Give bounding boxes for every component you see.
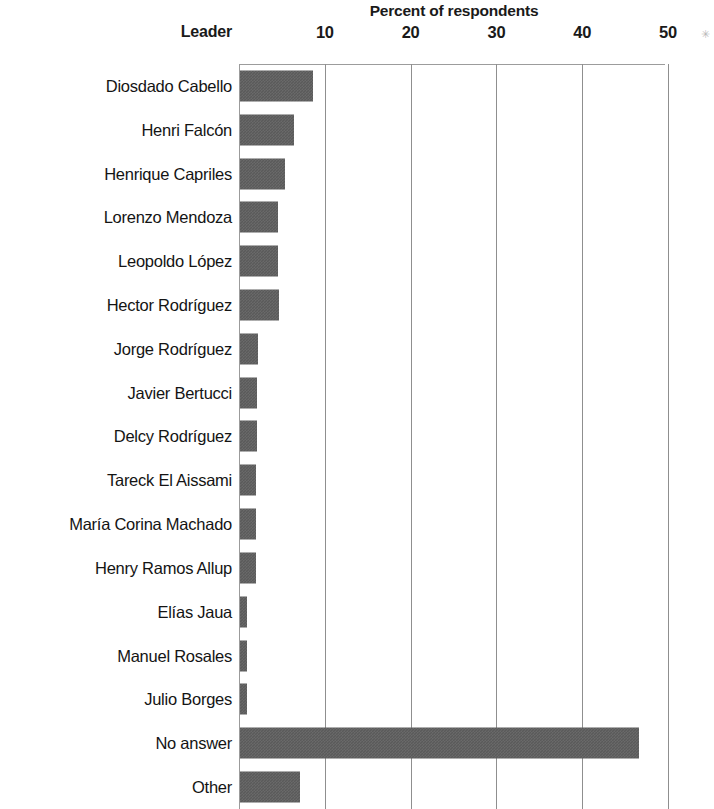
bar[interactable] bbox=[240, 684, 247, 715]
bar-row: Jorge Rodríguez bbox=[0, 327, 714, 371]
bar-row: Henri Falcón bbox=[0, 108, 714, 152]
bar[interactable] bbox=[240, 640, 247, 671]
category-label: Henrique Capriles bbox=[104, 164, 232, 183]
category-label: Manuel Rosales bbox=[117, 646, 232, 665]
category-label: Jorge Rodríguez bbox=[114, 339, 232, 358]
category-label: No answer bbox=[155, 734, 232, 753]
bar-row: Tareck El Aissami bbox=[0, 458, 714, 502]
category-label: Other bbox=[192, 778, 232, 797]
bar-row: Diosdado Cabello bbox=[0, 64, 714, 108]
bar-row: Henrique Capriles bbox=[0, 152, 714, 196]
bar[interactable] bbox=[240, 728, 639, 759]
bar[interactable] bbox=[240, 465, 256, 496]
bar-row: Other bbox=[0, 765, 714, 809]
scan-artifact-mark: ✳ bbox=[701, 30, 708, 38]
bar-row: Hector Rodríguez bbox=[0, 283, 714, 327]
bar-row: María Corina Machado bbox=[0, 502, 714, 546]
bar[interactable] bbox=[240, 772, 300, 803]
bar[interactable] bbox=[240, 70, 313, 101]
bar-row: Javier Bertucci bbox=[0, 371, 714, 415]
axis-title: Percent of respondents bbox=[239, 2, 669, 20]
bar[interactable] bbox=[240, 377, 257, 408]
bar-row: No answer bbox=[0, 721, 714, 765]
bar[interactable] bbox=[240, 552, 256, 583]
category-label: Javier Bertucci bbox=[128, 383, 232, 402]
x-axis-tick-label: 10 bbox=[316, 23, 334, 42]
category-label: Julio Borges bbox=[144, 690, 232, 709]
category-label: María Corina Machado bbox=[69, 515, 232, 534]
bar-row: Manuel Rosales bbox=[0, 634, 714, 678]
category-label: Henri Falcón bbox=[141, 120, 232, 139]
bar-row: Elías Jaua bbox=[0, 590, 714, 634]
bar-row: Henry Ramos Allup bbox=[0, 546, 714, 590]
category-label: Tareck El Aissami bbox=[107, 471, 232, 490]
bar[interactable] bbox=[240, 290, 279, 321]
bar-row: Delcy Rodríguez bbox=[0, 415, 714, 459]
category-axis-header: Leader bbox=[181, 23, 232, 41]
bar[interactable] bbox=[240, 114, 294, 145]
category-label: Delcy Rodríguez bbox=[114, 427, 232, 446]
category-label: Elías Jaua bbox=[157, 602, 232, 621]
bar-chart: Percent of respondents Leader ✳ 10203040… bbox=[0, 0, 714, 809]
category-label: Leopoldo López bbox=[118, 252, 232, 271]
category-label: Henry Ramos Allup bbox=[95, 558, 232, 577]
bar-row: Lorenzo Mendoza bbox=[0, 195, 714, 239]
category-label: Lorenzo Mendoza bbox=[104, 208, 232, 227]
bar-row: Leopoldo López bbox=[0, 239, 714, 283]
bar-row: Julio Borges bbox=[0, 678, 714, 722]
bar[interactable] bbox=[240, 509, 256, 540]
bar[interactable] bbox=[240, 421, 257, 452]
bar[interactable] bbox=[240, 158, 285, 189]
bar[interactable] bbox=[240, 596, 247, 627]
bar[interactable] bbox=[240, 246, 278, 277]
x-axis-tick-label: 50 bbox=[659, 23, 677, 42]
x-axis-tick-label: 40 bbox=[573, 23, 591, 42]
x-axis-tick-label: 30 bbox=[488, 23, 506, 42]
bar[interactable] bbox=[240, 202, 278, 233]
category-label: Diosdado Cabello bbox=[106, 76, 232, 95]
bar[interactable] bbox=[240, 333, 258, 364]
x-axis-tick-label: 20 bbox=[402, 23, 420, 42]
category-label: Hector Rodríguez bbox=[107, 296, 232, 315]
